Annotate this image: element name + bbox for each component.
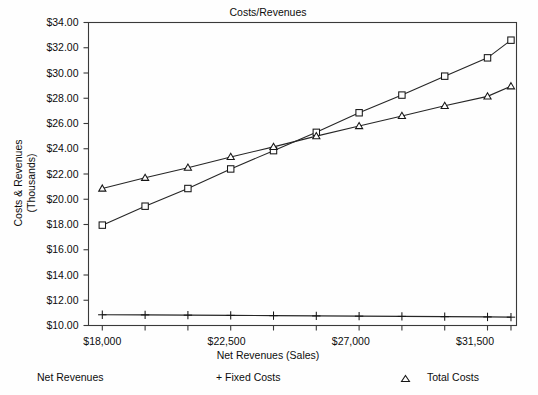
chart-canvas: Costs/Revenues Costs & Revenues (Thousan… bbox=[0, 0, 538, 395]
chart-title: Costs/Revenues bbox=[229, 6, 306, 18]
data-point-square bbox=[508, 37, 514, 43]
series-net-revenues bbox=[99, 37, 514, 228]
y-tick-label: $28.00 bbox=[46, 92, 78, 104]
y-axis-title-line1: Costs & Revenues bbox=[12, 140, 24, 227]
data-point-square bbox=[442, 73, 448, 79]
series-line bbox=[102, 40, 511, 225]
legend-marker-triangle-icon bbox=[402, 376, 410, 382]
x-tick-label: $22,500 bbox=[208, 335, 246, 347]
y-tick-label: $34.00 bbox=[46, 16, 78, 28]
data-point-square bbox=[356, 110, 362, 116]
y-tick-label: $20.00 bbox=[46, 193, 78, 205]
y-axis-ticks: $10.00$12.00$14.00$16.00$18.00$20.00$22.… bbox=[46, 16, 88, 331]
y-tick-label: $16.00 bbox=[46, 243, 78, 255]
y-axis-title: Costs & Revenues (Thousands) bbox=[12, 140, 37, 227]
series-layer bbox=[98, 37, 515, 321]
data-point-square bbox=[399, 92, 405, 98]
y-tick-label: $24.00 bbox=[46, 142, 78, 154]
series-line bbox=[102, 315, 511, 317]
legend-label-fixed-costs[interactable]: + Fixed Costs bbox=[216, 371, 280, 383]
x-axis-ticks: $18,000$22,500$27,000$31,500 bbox=[83, 326, 511, 347]
series-fixed-costs bbox=[98, 311, 515, 322]
y-tick-label: $14.00 bbox=[46, 269, 78, 281]
y-tick-label: $12.00 bbox=[46, 294, 78, 306]
y-tick-label: $32.00 bbox=[46, 41, 78, 53]
x-axis-title: Net Revenues (Sales) bbox=[217, 349, 320, 361]
y-tick-label: $18.00 bbox=[46, 218, 78, 230]
x-tick-label: $31,500 bbox=[456, 335, 494, 347]
legend-label-net-revenues[interactable]: Net Revenues bbox=[37, 371, 104, 383]
y-axis-title-line2: (Thousands) bbox=[25, 154, 37, 213]
data-point-square bbox=[185, 185, 191, 191]
legend-label-total-costs[interactable]: Total Costs bbox=[427, 371, 479, 383]
data-point-square bbox=[99, 222, 105, 228]
chart-legend: Net Revenues + Fixed Costs Total Costs bbox=[37, 371, 479, 383]
y-tick-label: $30.00 bbox=[46, 67, 78, 79]
y-tick-label: $10.00 bbox=[46, 319, 78, 331]
data-point-square bbox=[228, 166, 234, 172]
y-tick-label: $22.00 bbox=[46, 168, 78, 180]
costs-revenues-chart: Costs/Revenues Costs & Revenues (Thousan… bbox=[0, 0, 538, 395]
plot-frame bbox=[89, 23, 517, 326]
x-tick-label: $18,000 bbox=[83, 335, 121, 347]
data-point-square bbox=[142, 203, 148, 209]
series-line bbox=[102, 86, 511, 188]
x-tick-label: $27,000 bbox=[332, 335, 370, 347]
data-point-triangle bbox=[507, 83, 514, 89]
data-point-square bbox=[484, 55, 490, 61]
y-tick-label: $26.00 bbox=[46, 117, 78, 129]
